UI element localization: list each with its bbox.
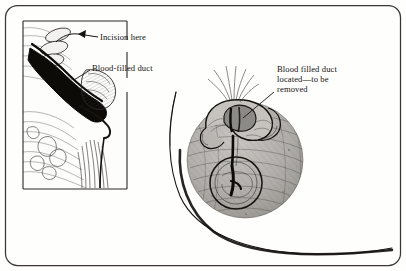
label-line-3: removed: [277, 84, 308, 94]
illustration-canvas: [0, 0, 406, 271]
label-line-2: located—to be: [277, 74, 329, 84]
suture-threads: [208, 66, 259, 102]
label-line-1: Blood filled duct: [277, 64, 337, 74]
cross-section-inset: [23, 21, 127, 189]
label-blood-filled-duct-located: Blood filled ductlocated—to beremoved: [277, 64, 337, 95]
figure-container: Incision here Blood-filled duct Blood fi…: [0, 0, 406, 271]
label-incision-here: Incision here: [100, 32, 146, 42]
label-blood-filled-duct: Blood-filled duct: [92, 63, 153, 73]
